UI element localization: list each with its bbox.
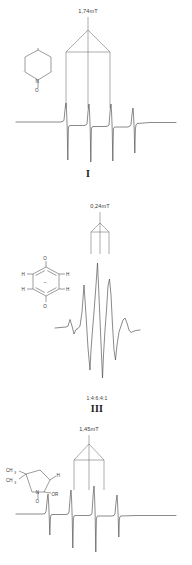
atom-label-o-1: O bbox=[35, 88, 39, 93]
atom-label-h-3: H bbox=[66, 272, 69, 277]
panel-spectrum-3: 1,45mT CH 3 CH 3 H bbox=[0, 380, 192, 565]
atom-label-n-1: N bbox=[36, 79, 39, 84]
panel-2-graphics: O O H H H H – bbox=[0, 190, 192, 380]
atom-label-o-bottom-2: O bbox=[43, 304, 47, 309]
svg-text:·: · bbox=[52, 70, 53, 74]
svg-text:3: 3 bbox=[14, 471, 16, 475]
epr-trace-1 bbox=[16, 103, 176, 162]
atom-label-n-3: N bbox=[36, 490, 39, 495]
atom-label-ch3-2: CH bbox=[6, 478, 13, 483]
atom-label-h-1: H bbox=[22, 272, 25, 277]
atom-label-o-3: O bbox=[36, 499, 40, 504]
charge-label-minus: – bbox=[44, 280, 47, 285]
atom-label-ch3-1: CH bbox=[6, 468, 13, 473]
panel-spectrum-1: 1,74mT N O · · bbox=[0, 0, 192, 190]
atom-label-o-top-2: O bbox=[43, 256, 47, 261]
atom-label-or-3: OR bbox=[52, 492, 60, 497]
epr-trace-2 bbox=[55, 263, 140, 378]
svg-text:3: 3 bbox=[14, 481, 16, 485]
epr-spectra-figure: 1,74mT N O · · bbox=[0, 0, 192, 565]
atom-label-h-4: H bbox=[66, 287, 69, 292]
hyperfine-tree-2 bbox=[91, 212, 109, 254]
hyperfine-tree-3 bbox=[74, 435, 104, 490]
atom-label-h-2: H bbox=[22, 287, 25, 292]
hyperfine-tree-1 bbox=[66, 17, 110, 108]
atom-label-h-3: H bbox=[57, 473, 60, 478]
panel-1-graphics: N O · · bbox=[0, 0, 192, 190]
panel-spectrum-2: 0,24mT bbox=[0, 190, 192, 380]
epr-trace-3 bbox=[16, 486, 176, 552]
panel-3-graphics: CH 3 CH 3 H N O OR bbox=[0, 380, 192, 565]
svg-text:·: · bbox=[23, 70, 24, 74]
roman-numeral-1: I bbox=[86, 168, 90, 179]
